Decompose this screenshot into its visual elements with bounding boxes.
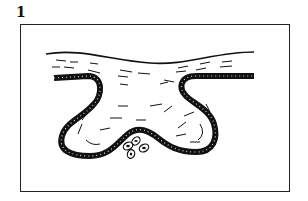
- diagram-illustration: [0, 0, 308, 201]
- epithelial-band: [54, 76, 254, 156]
